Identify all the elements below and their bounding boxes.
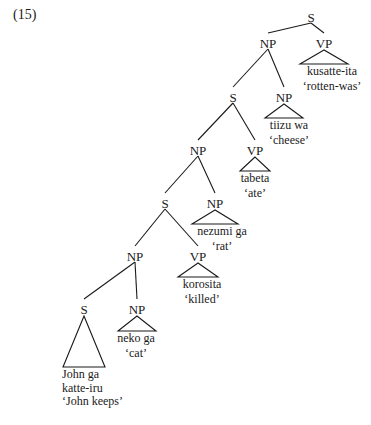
node-vp3: VP	[247, 143, 264, 158]
tree-edge-np5-np6	[135, 262, 137, 299]
tree-edge-s4-np5	[135, 209, 165, 246]
tree-edge-s1-np1	[268, 23, 311, 33]
tree-edge-np5-s6	[84, 262, 135, 299]
node-s6: S	[80, 302, 87, 317]
leaf-word: tiizu wa	[270, 118, 309, 132]
leaf-gloss: ‘killed’	[184, 292, 219, 306]
leaf-word: tabeta	[241, 171, 270, 185]
leaf-triangle-vp1	[300, 50, 348, 64]
tree-edge-s2-vp3	[233, 103, 255, 140]
syntax-tree-diagram: SNPVPSNPNPVPSNPNPVPSNP kusatte-ita‘rotte…	[0, 0, 371, 425]
tree-edge-s2-np3	[198, 103, 233, 140]
tree-nodes: SNPVPSNPNPVPSNPNPVPSNP	[80, 10, 332, 317]
leaf-triangle-np4	[192, 210, 238, 224]
leaf-triangle-vp5	[178, 263, 218, 277]
leaf-word: nezumi ga	[197, 224, 247, 238]
node-s1: S	[307, 10, 314, 25]
node-vp5: VP	[190, 249, 207, 264]
leaf-triangle-vp3	[240, 157, 270, 171]
leaf-triangle-s6	[63, 316, 105, 367]
node-np1: NP	[260, 36, 277, 51]
leaf-word: neko ga	[117, 331, 155, 345]
node-np4: NP	[207, 196, 224, 211]
leaf-gloss: ‘cat’	[125, 346, 147, 360]
leaf-gloss: ‘rotten-was’	[303, 79, 362, 93]
leaf-triangle-np2	[265, 104, 303, 118]
node-np2: NP	[276, 90, 293, 105]
tree-edge-np3-s4	[165, 156, 198, 193]
leaf-gloss: ‘John keeps’	[62, 394, 123, 408]
leaf-gloss: ‘cheese’	[269, 133, 309, 147]
node-np5: NP	[127, 249, 144, 264]
leaf-word: katte-iru	[62, 381, 103, 395]
tree-edge-np3-np4	[198, 156, 215, 193]
node-s4: S	[161, 196, 168, 211]
node-np3: NP	[190, 143, 207, 158]
leaf-word: kusatte-ita	[307, 64, 358, 78]
tree-edge-np1-np2	[268, 49, 284, 87]
leaf-triangle-np6	[118, 316, 156, 331]
tree-edge-np1-s2	[233, 49, 268, 87]
leaf-gloss: ‘ate’	[244, 186, 266, 200]
node-s2: S	[229, 90, 236, 105]
leaf-gloss: ‘rat’	[212, 239, 233, 253]
leaf-texts: kusatte-ita‘rotten-was’tiizu wa‘cheese’t…	[62, 64, 361, 408]
leaf-triangles	[63, 50, 348, 367]
node-vp1: VP	[316, 36, 333, 51]
tree-edge-s4-vp5	[165, 209, 198, 246]
leaf-word: korosita	[183, 277, 222, 291]
leaf-word: John ga	[62, 367, 100, 381]
node-np6: NP	[129, 302, 146, 317]
